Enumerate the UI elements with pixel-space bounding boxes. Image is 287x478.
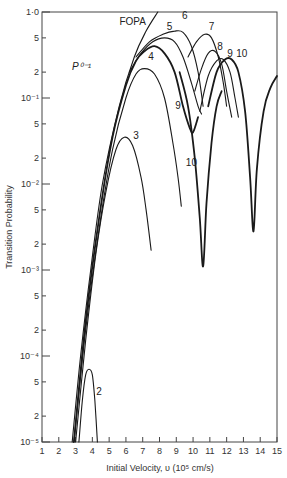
y-tick-label: 2 bbox=[34, 67, 39, 77]
curve-label: 4 bbox=[148, 51, 154, 62]
curve-label: 7 bbox=[209, 21, 215, 32]
y-tick-label: 5 bbox=[34, 119, 39, 129]
y-tick-label: 1·0 bbox=[26, 7, 39, 17]
y-tick-label: 10⁻³ bbox=[21, 265, 39, 275]
y-tick-label: 5 bbox=[34, 205, 39, 215]
curve-label: FOPA bbox=[119, 16, 146, 27]
plot-curves bbox=[72, 12, 277, 442]
x-tick-label: 7 bbox=[140, 446, 145, 456]
curve-label: 2 bbox=[96, 386, 102, 397]
curve-10 bbox=[208, 58, 277, 232]
plot-frame bbox=[42, 12, 277, 442]
x-tick-label: 13 bbox=[238, 446, 248, 456]
plot-axes: 1234567891011121314151·05210⁻¹5210⁻²5210… bbox=[20, 7, 282, 456]
x-tick-label: 6 bbox=[123, 446, 128, 456]
x-tick-label: 10 bbox=[188, 446, 198, 456]
curve-label: 9 bbox=[227, 48, 233, 59]
curve-label: 10 bbox=[186, 157, 198, 168]
curve-10 bbox=[180, 72, 222, 266]
y-tick-label: 10⁻⁴ bbox=[20, 351, 39, 361]
y-tick-label: 10⁻² bbox=[21, 179, 39, 189]
curve-label: 8 bbox=[217, 41, 223, 52]
x-axis-title: Initial Velocity, υ (10⁵ cm/s) bbox=[106, 463, 214, 473]
x-tick-label: 14 bbox=[255, 446, 265, 456]
y-tick-label: 5 bbox=[34, 33, 39, 43]
curve-labels: FOPA2345678910910 bbox=[96, 10, 247, 397]
y-tick-label: 2 bbox=[34, 153, 39, 163]
x-tick-label: 4 bbox=[90, 446, 95, 456]
x-tick-label: 9 bbox=[174, 446, 179, 456]
curve-label: 5 bbox=[167, 21, 173, 32]
x-tick-label: 2 bbox=[56, 446, 61, 456]
x-tick-label: 1 bbox=[39, 446, 44, 456]
x-tick-label: 5 bbox=[107, 446, 112, 456]
y-tick-label: 5 bbox=[34, 377, 39, 387]
annotation-p01: P⁰⁻¹ bbox=[72, 61, 92, 72]
y-tick-label: 2 bbox=[34, 239, 39, 249]
y-tick-label: 2 bbox=[34, 411, 39, 421]
curve-label: 10 bbox=[236, 48, 248, 59]
curve-3 bbox=[76, 137, 152, 442]
y-tick-label: 5 bbox=[34, 291, 39, 301]
y-tick-label: 10⁻⁵ bbox=[20, 437, 39, 447]
curve-label: 3 bbox=[133, 130, 139, 141]
curve-4 bbox=[74, 69, 181, 442]
curve-label: 6 bbox=[182, 10, 188, 21]
y-tick-label: 10⁻¹ bbox=[21, 93, 39, 103]
curve-label: 9 bbox=[175, 100, 181, 111]
x-tick-label: 15 bbox=[272, 446, 282, 456]
y-axis-title: Transition Probability bbox=[4, 185, 14, 269]
x-tick-label: 12 bbox=[222, 446, 232, 456]
x-tick-label: 3 bbox=[73, 446, 78, 456]
transition-probability-chart: 1234567891011121314151·05210⁻¹5210⁻²5210… bbox=[0, 0, 287, 478]
x-tick-label: 8 bbox=[157, 446, 162, 456]
y-tick-label: 2 bbox=[34, 325, 39, 335]
x-tick-label: 11 bbox=[205, 446, 214, 456]
